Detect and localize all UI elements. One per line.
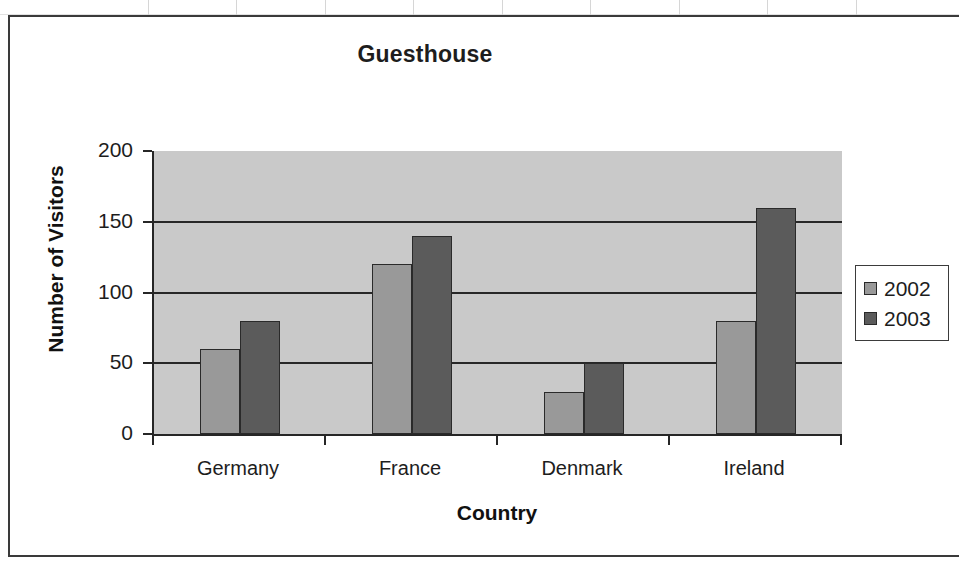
worksheet-gridline-vertical — [413, 0, 414, 16]
x-axis-tick — [496, 435, 498, 445]
x-axis-label-germany: Germany — [152, 457, 324, 480]
legend-swatch-icon — [864, 282, 877, 295]
x-axis-tick — [668, 435, 670, 445]
y-axis-tick-label: 0 — [73, 421, 133, 445]
y-axis-tick-label: 150 — [73, 209, 133, 233]
plot-area — [152, 151, 842, 434]
y-axis-title: Number of Visitors — [44, 149, 68, 369]
worksheet-gridline-vertical — [767, 0, 768, 16]
y-axis-tick-label: 200 — [73, 138, 133, 162]
x-axis-label-ireland: Ireland — [668, 457, 840, 480]
worksheet-gridline-vertical — [856, 0, 857, 16]
y-axis-tick — [143, 292, 152, 294]
worksheet-gridline-vertical — [148, 0, 149, 16]
legend-label: 2003 — [884, 308, 931, 329]
bar-france-2002[interactable] — [372, 264, 412, 434]
bar-france-2003[interactable] — [412, 236, 452, 434]
bar-denmark-2002[interactable] — [544, 392, 584, 434]
y-axis-tick-label: 100 — [73, 280, 133, 304]
worksheet-gridline-vertical — [325, 0, 326, 16]
chart-title: Guesthouse — [10, 41, 840, 68]
gridline — [154, 221, 842, 223]
x-axis-label-denmark: Denmark — [496, 457, 668, 480]
bar-ireland-2003[interactable] — [756, 208, 796, 434]
x-axis-label-france: France — [324, 457, 496, 480]
bar-denmark-2003[interactable] — [584, 363, 624, 434]
bar-ireland-2002[interactable] — [716, 321, 756, 434]
legend-item-2003[interactable]: 2003 — [864, 303, 940, 333]
legend-label: 2002 — [884, 278, 931, 299]
x-axis-tick — [152, 435, 154, 445]
bar-germany-2002[interactable] — [200, 349, 240, 434]
y-axis-tick-label: 50 — [73, 350, 133, 374]
y-axis-tick — [143, 150, 152, 152]
chart-object[interactable]: Guesthouse Number of Visitors Country 05… — [8, 15, 959, 557]
chart-legend[interactable]: 20022003 — [855, 265, 949, 341]
x-axis-title: Country — [152, 501, 842, 525]
worksheet-gridline-vertical — [236, 0, 237, 16]
worksheet-gridline-vertical — [679, 0, 680, 16]
gridline — [154, 292, 842, 294]
bar-germany-2003[interactable] — [240, 321, 280, 434]
legend-swatch-icon — [864, 312, 877, 325]
legend-item-2002[interactable]: 2002 — [864, 273, 940, 303]
worksheet-gridline-vertical — [590, 0, 591, 16]
x-axis-tick — [324, 435, 326, 445]
worksheet-gridline-vertical — [502, 0, 503, 16]
y-axis-tick — [143, 433, 152, 435]
y-axis-tick — [143, 362, 152, 364]
y-axis-tick — [143, 221, 152, 223]
x-axis-tick — [840, 435, 842, 445]
